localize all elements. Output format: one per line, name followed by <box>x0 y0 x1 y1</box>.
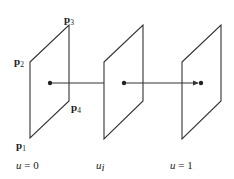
label-p3: p3 <box>64 13 74 27</box>
label-p4: p4 <box>71 101 81 115</box>
point-dot-u1 <box>199 81 203 85</box>
label-u1: u = 1 <box>170 159 193 171</box>
label-ui: ui <box>96 159 105 173</box>
label-p2: p2 <box>14 55 24 69</box>
point-dot-u0 <box>48 81 52 85</box>
diagram-canvas: p3 p2 p4 p1 u = 0 ui u = 1 <box>0 0 234 179</box>
arrowhead-icon <box>193 81 199 86</box>
point-dot-ui <box>122 81 126 85</box>
label-p1: p1 <box>16 139 26 153</box>
label-u0: u = 0 <box>16 159 39 171</box>
